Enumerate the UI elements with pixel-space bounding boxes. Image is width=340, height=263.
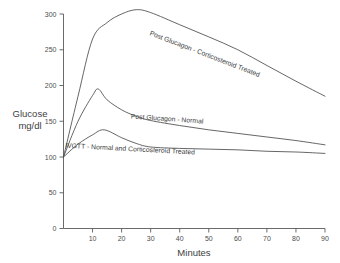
x-tick-label: 20 bbox=[118, 235, 126, 242]
series-label-3: IVGTT - Normal and Corticosteroid Treate… bbox=[65, 142, 195, 156]
line-chart-plot: 050100150200250300 102030405060708090 Po… bbox=[0, 0, 340, 263]
chart-canvas: Glucose mg/dl 050100150200250300 1020304… bbox=[0, 0, 340, 263]
x-ticks-group: 102030405060708090 bbox=[89, 229, 329, 242]
x-tick-label: 10 bbox=[89, 235, 97, 242]
curves-group bbox=[64, 10, 326, 157]
x-tick-label: 60 bbox=[234, 235, 242, 242]
series-curve-1 bbox=[64, 10, 326, 157]
y-tick-label: 250 bbox=[45, 46, 57, 53]
x-tick-label: 80 bbox=[292, 235, 300, 242]
x-axis-title: Minutes bbox=[177, 247, 211, 258]
y-ticks-group: 050100150200250300 bbox=[45, 11, 64, 233]
x-tick-label: 40 bbox=[176, 235, 184, 242]
series-label-1: Post Glucagon - Corticosteroid Treated bbox=[148, 29, 261, 79]
y-tick-label: 300 bbox=[45, 11, 57, 18]
x-tick-label: 50 bbox=[205, 235, 213, 242]
y-tick-label: 150 bbox=[45, 118, 57, 125]
y-tick-label: 100 bbox=[45, 154, 57, 161]
y-tick-label: 200 bbox=[45, 82, 57, 89]
y-tick-label: 50 bbox=[49, 189, 57, 196]
x-tick-label: 30 bbox=[147, 235, 155, 242]
x-tick-label: 90 bbox=[321, 235, 329, 242]
x-tick-label: 70 bbox=[263, 235, 271, 242]
y-tick-label: 0 bbox=[53, 225, 57, 232]
